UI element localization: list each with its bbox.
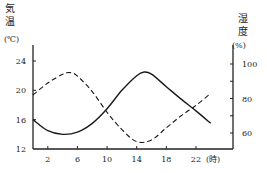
right-tick-label: 100 xyxy=(242,60,257,69)
left-axis-unit: (℃) xyxy=(4,35,19,44)
humidity-line xyxy=(33,73,211,143)
left-tick-label: 12 xyxy=(16,145,26,154)
left-tick-label: 24 xyxy=(16,57,26,66)
right-axis-unit: (%) xyxy=(232,41,246,50)
x-tick-label: 18 xyxy=(161,155,171,164)
temperature-humidity-chart: 1216202460801002610141822(時)気温(℃)湿度(%) xyxy=(0,0,267,173)
right-axis-title-1: 湿 xyxy=(238,13,248,24)
x-tick-label: 22 xyxy=(191,155,201,164)
x-tick-label: 10 xyxy=(102,155,112,164)
left-axis-title-2: 温 xyxy=(5,16,15,27)
right-axis-title-2: 度 xyxy=(238,25,248,37)
x-tick-label: 2 xyxy=(45,155,50,164)
right-tick-label: 60 xyxy=(242,129,252,138)
temperature-line xyxy=(33,72,211,134)
left-tick-label: 16 xyxy=(16,116,26,125)
x-tick-label: 14 xyxy=(132,155,142,164)
left-axis-title-1: 気 xyxy=(5,2,15,14)
left-tick-label: 20 xyxy=(16,86,26,95)
x-axis-unit: (時) xyxy=(206,155,220,164)
x-tick-label: 6 xyxy=(75,155,80,164)
right-tick-label: 80 xyxy=(242,95,252,104)
